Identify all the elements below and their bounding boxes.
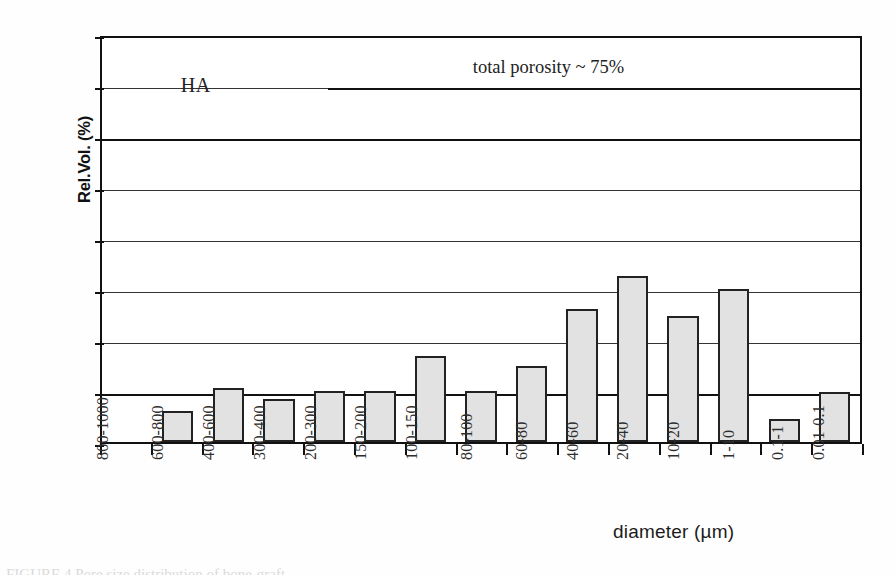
plot-area: HA total porosity ~ 75% [100,36,862,444]
bar-slot [405,38,456,442]
bar-slot [708,38,759,442]
x-tick-label: 60-80 [513,422,531,460]
bar-slot [607,38,658,442]
x-tick-label: 100-150 [403,405,421,460]
bar-slot [304,38,355,442]
x-tick-label: 0.1-1 [769,426,787,460]
x-tick-label: 800-1000 [94,397,112,460]
figure-caption: FIGURE 4 Pore size distribution of bone-… [6,566,526,575]
x-tick-label: 1-10 [720,430,738,460]
figure-root: Rel.Vol. (%) 0510152025303540 HA total p… [0,0,895,575]
x-tick-11 [659,444,661,455]
bar-slot [809,38,860,442]
bar[interactable] [718,289,749,442]
bar-group [102,38,860,442]
bar-slot [557,38,608,442]
x-tick-15 [862,444,864,455]
bar-slot [102,38,153,442]
x-tick-label-cell: 0.1-1 [760,456,811,552]
x-tick-9 [557,444,559,455]
x-tick-label-cell: 200-300 [303,456,354,552]
x-tick-label-cell: 800-1000 [100,456,151,552]
bar-slot [658,38,709,442]
bar-slot [506,38,557,442]
x-tick-label: 400-600 [200,405,218,460]
bar-slot [759,38,810,442]
x-tick-label-cell: 0.01-0.1 [811,456,862,552]
x-tick-label-cell: 300-400 [252,456,303,552]
x-tick-label-group: 800-1000600-800400-600300-400200-300150-… [100,456,862,552]
x-axis-title: diameter (µm) [613,521,734,543]
x-tick-12 [710,444,712,455]
x-tick-label-cell: 150-200 [354,456,405,552]
x-tick-13 [760,444,762,455]
bar[interactable] [617,276,648,442]
x-tick-label: 600-800 [149,405,167,460]
x-tick-label-cell: 100-150 [405,456,456,552]
x-tick-10 [608,444,610,455]
bar-slot [355,38,406,442]
bar[interactable] [162,411,193,442]
x-tick-label: 80-100 [458,413,476,460]
bar-slot [456,38,507,442]
x-tick-8 [506,444,508,455]
bar-slot [254,38,305,442]
x-tick-label-cell: 400-600 [202,456,253,552]
y-axis-title: Rel.Vol. (%) [75,70,94,250]
x-tick-label: 20-40 [614,422,632,460]
x-tick-label-cell: 60-80 [506,456,557,552]
x-tick-label: 40-60 [563,422,581,460]
bar-slot [203,38,254,442]
x-tick-label: 10-20 [665,422,683,460]
x-tick-label: 200-300 [301,405,319,460]
x-tick-label-cell: 600-800 [151,456,202,552]
x-tick-label: 150-200 [352,405,370,460]
x-tick-label-cell: 40-60 [557,456,608,552]
x-tick-label: 0.01-0.1 [809,405,827,460]
bar-slot [153,38,204,442]
x-tick-label: 300-400 [250,405,268,460]
x-tick-label-cell: 80-100 [456,456,507,552]
